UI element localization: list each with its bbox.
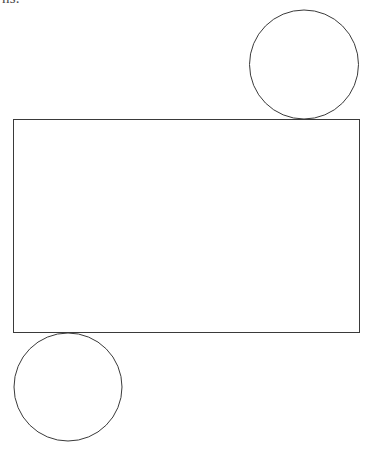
bottom-left-circle-shape xyxy=(14,333,122,441)
rectangle-shape xyxy=(14,120,360,333)
geometric-figure-canvas xyxy=(0,0,369,461)
top-right-circle-shape xyxy=(250,10,359,119)
